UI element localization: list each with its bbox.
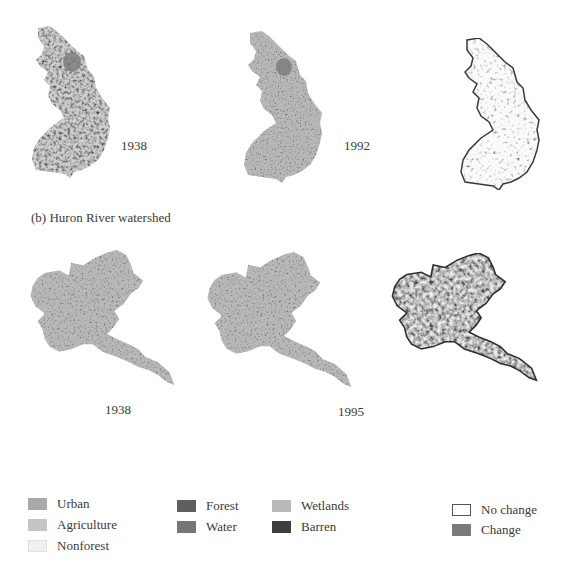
legend-swatch-agriculture [28,519,47,531]
year-label-a-1938: 1938 [121,138,147,154]
map-a-1992 [240,31,330,183]
legend-swatch-urban [28,498,47,510]
legend-swatch-change [452,524,471,536]
map-b-1995 [205,252,355,392]
legend-item-change: Change [452,521,521,539]
legend-item-wetlands: Wetlands [272,497,349,515]
legend-swatch-water [177,521,196,533]
legend-item-barren: Barren [272,518,336,536]
legend-item-nonforest: Nonforest [28,537,109,555]
map-a-1938 [28,26,118,178]
legend-item-no-change: No change [452,501,537,519]
legend-swatch-no-change [452,504,471,516]
legend-swatch-wetlands [272,500,291,512]
change-map-b [390,253,540,385]
change-map-a [457,38,547,190]
legend-swatch-nonforest [28,540,47,552]
legend-item-forest: Forest [177,497,239,515]
year-label-a-1992: 1992 [344,138,370,154]
panel-b-title: (b) Huron River watershed [31,210,171,226]
legend-item-agriculture: Agriculture [28,516,117,534]
legend-swatch-forest [177,500,196,512]
legend-item-water: Water [177,518,237,536]
map-b-1938 [28,250,178,390]
legend-swatch-barren [272,521,291,533]
year-label-b-1995: 1995 [338,404,364,420]
legend-item-urban: Urban [28,495,90,513]
year-label-b-1938: 1938 [105,402,131,418]
